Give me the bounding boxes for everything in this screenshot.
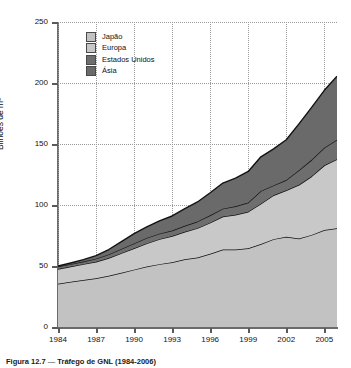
x-axis-tick bbox=[172, 328, 174, 333]
y-axis-tick-label: 0 bbox=[44, 323, 48, 331]
x-axis-tick bbox=[58, 328, 60, 333]
figure-container: Bilhões de m³ 050100150200250 1984198719… bbox=[0, 0, 351, 368]
legend-item: Japão bbox=[86, 31, 155, 42]
chart-legend: JapãoEuropaEstados UnidosÁsia bbox=[86, 31, 155, 77]
y-axis-tick-label: 250 bbox=[35, 18, 48, 26]
legend-item-label: Japão bbox=[102, 33, 122, 41]
legend-item-label: Estados Unidos bbox=[102, 56, 155, 64]
x-axis-tick-label: 1990 bbox=[114, 336, 154, 344]
x-axis-line bbox=[57, 327, 338, 329]
y-axis-tick-label: 150 bbox=[35, 140, 48, 148]
x-axis-tick bbox=[210, 328, 212, 333]
y-axis-tick-label: 100 bbox=[35, 201, 48, 209]
x-axis-tick bbox=[286, 328, 288, 333]
y-axis-tick-label: 50 bbox=[39, 262, 48, 270]
x-axis-tick bbox=[324, 328, 326, 333]
legend-item: Europa bbox=[86, 43, 155, 54]
caption-text: Tráfego de GNL (1984-2006) bbox=[57, 357, 156, 366]
caption-number: Figura 12.7 bbox=[6, 357, 46, 366]
x-axis-tick-label: 1996 bbox=[190, 336, 230, 344]
legend-item: Ásia bbox=[86, 66, 155, 77]
legend-item: Estados Unidos bbox=[86, 54, 155, 65]
legend-item-label: Ásia bbox=[102, 67, 117, 75]
x-axis-tick-label: 2005 bbox=[304, 336, 344, 344]
x-axis-tick-label: 1999 bbox=[228, 336, 268, 344]
x-axis-tick-label: 1993 bbox=[152, 336, 192, 344]
y-axis-tick-label: 200 bbox=[35, 79, 48, 87]
x-axis-tick-label: 2002 bbox=[266, 336, 306, 344]
x-axis-tick bbox=[134, 328, 136, 333]
legend-swatch-icon bbox=[86, 55, 96, 65]
caption-separator: — bbox=[48, 357, 56, 366]
legend-swatch-icon bbox=[86, 66, 96, 76]
legend-swatch-icon bbox=[86, 43, 96, 53]
legend-item-label: Europa bbox=[102, 44, 126, 52]
x-axis-tick-label: 1984 bbox=[38, 336, 78, 344]
legend-swatch-icon bbox=[86, 32, 96, 42]
figure-caption: Figura 12.7 — Tráfego de GNL (1984-2006) bbox=[6, 357, 156, 366]
x-axis-tick bbox=[248, 328, 250, 333]
y-axis-title: Bilhões de m³ bbox=[0, 98, 5, 150]
x-axis-tick-label: 1987 bbox=[76, 336, 116, 344]
x-axis-tick bbox=[96, 328, 98, 333]
